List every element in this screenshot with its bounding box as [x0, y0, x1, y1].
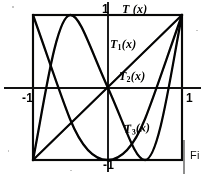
plot-title: T (x): [122, 3, 147, 15]
tick-label-right-1: 1: [186, 92, 193, 104]
curve-label-t2: T2(x): [119, 70, 145, 84]
curve-label-t1: T1(x): [110, 38, 136, 52]
figure-container: 1 -1 1 -1 T (x) T1(x) T2(x) T3(x) Fi: [0, 0, 205, 174]
scan-speck: [70, 170, 72, 171]
scan-speck: [8, 150, 9, 152]
curve-label-t2-base: T: [119, 69, 127, 83]
tick-label-top-1: 1: [102, 3, 109, 15]
curve-label-t3-arg: (x): [135, 120, 151, 135]
curve-label-t1-arg: (x): [122, 37, 137, 51]
curve-label-t1-base: T: [110, 37, 118, 51]
scan-speck: [196, 30, 198, 31]
curve-label-t3: T3(x): [124, 121, 151, 137]
scan-speck: [12, 6, 14, 8]
chebyshev-plot: [0, 0, 205, 174]
tick-label-bottom-minus-1: -1: [103, 159, 114, 171]
tick-label-left-minus-1: -1: [22, 92, 33, 104]
caption-fragment: Fi: [190, 150, 200, 161]
curve-label-t2-arg: (x): [131, 69, 146, 83]
